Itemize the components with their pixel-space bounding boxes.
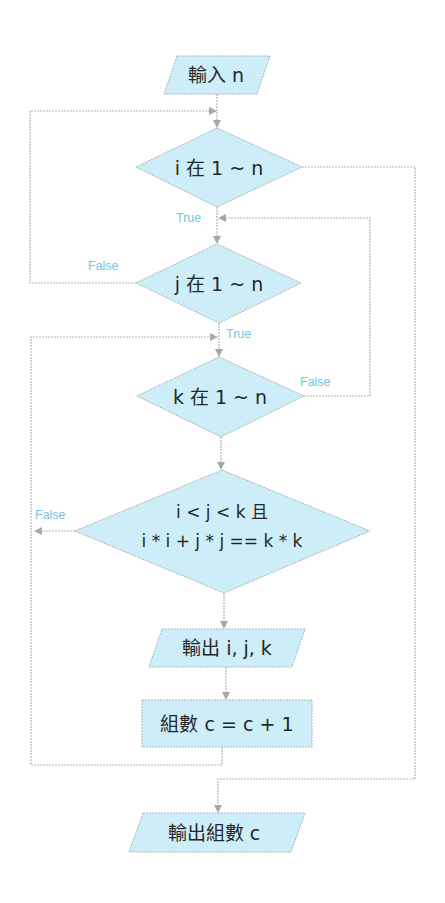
node-output-c-text: 輸出組數 c — [168, 822, 261, 844]
label-i-true: True — [176, 211, 201, 225]
node-output-ijk-text: 輸出 i, j, k — [182, 637, 272, 659]
arrow-head-icon — [210, 333, 218, 341]
arrow-head-icon — [214, 805, 222, 813]
arrow-head-icon — [213, 236, 221, 244]
node-increment: 組數 c = c + 1 — [142, 700, 312, 747]
node-output-c: 輸出組數 c — [129, 813, 305, 852]
edge-j-false-to-i — [30, 111, 213, 283]
arrow-head-icon — [222, 692, 230, 700]
node-condition-line1: i < j < k 且 — [176, 502, 268, 522]
flowchart-canvas: 輸入 n i 在 1 ~ n j 在 1 ~ n k 在 1 ~ n i < j… — [0, 0, 445, 903]
arrow-head-icon — [34, 527, 42, 535]
arrow-head-icon — [218, 214, 226, 222]
label-condition-false: False — [35, 508, 66, 522]
label-k-false: False — [300, 375, 331, 389]
node-loop-i: i 在 1 ~ n — [136, 128, 302, 207]
arrow-head-icon — [209, 107, 217, 115]
node-increment-text: 組數 c = c + 1 — [160, 713, 293, 735]
node-loop-k-text: k 在 1 ~ n — [173, 386, 267, 408]
label-j-true: True — [226, 327, 251, 341]
node-loop-j: j 在 1 ~ n — [136, 244, 301, 323]
arrow-head-icon — [217, 462, 225, 470]
node-condition-line2: i * i + j * j == k * k — [142, 531, 303, 551]
node-input-n: 輸入 n — [164, 56, 270, 94]
label-j-false: False — [88, 259, 119, 273]
arrow-head-icon — [215, 349, 223, 357]
node-input-n-text: 輸入 n — [188, 64, 244, 86]
node-loop-i-text: i 在 1 ~ n — [175, 157, 264, 179]
node-loop-j-text: j 在 1 ~ n — [174, 273, 264, 295]
node-condition: i < j < k 且 i * i + j * j == k * k — [75, 470, 370, 593]
node-loop-k: k 在 1 ~ n — [137, 357, 304, 437]
arrow-head-icon — [220, 621, 228, 629]
arrow-head-icon — [213, 120, 221, 128]
node-output-ijk: 輸出 i, j, k — [149, 629, 305, 667]
